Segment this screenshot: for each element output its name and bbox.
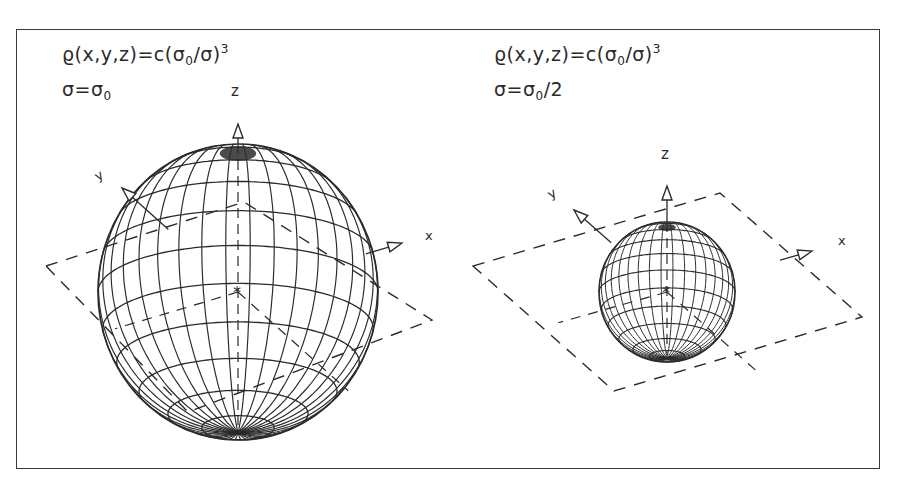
left-x-axis-label: x [425, 228, 433, 243]
left-z-axis-arrowhead-icon [233, 124, 243, 138]
right-y-axis-shaft [585, 219, 612, 243]
left-sigma-condition: σ=σ0 [62, 78, 112, 103]
right-sigma-condition: σ=σ0/2 [494, 78, 563, 103]
right-x-axis-arrowhead-icon [797, 250, 812, 260]
left-z-axis-label: z [231, 82, 239, 100]
sphere-meridian [179, 146, 238, 433]
left-xy-plane [46, 202, 432, 412]
right-center-star-icon: * [662, 283, 670, 302]
sphere-meridian [238, 146, 297, 433]
right-z-axis-arrowhead-icon [662, 186, 672, 200]
sphere-meridian [667, 223, 696, 359]
right-z-axis-label: z [661, 145, 669, 163]
left-panel: * [46, 124, 432, 440]
diagram-canvas: ** [0, 0, 907, 496]
right-panel: * [473, 186, 862, 391]
sphere-parallel [139, 358, 337, 401]
right-x-axis-label: x [838, 233, 846, 248]
right-density-formula: ϱ(x,y,z)=c(σ0/σ)3 [494, 42, 661, 68]
left-center-star-icon: * [233, 283, 241, 302]
left-density-formula: ϱ(x,y,z)=c(σ0/σ)3 [62, 42, 229, 68]
sphere-meridian [99, 249, 239, 432]
left-x-axis-hidden [115, 292, 238, 329]
sphere-meridian [238, 249, 378, 432]
right-north-pole-cap [658, 224, 676, 231]
left-north-pole-cap [220, 146, 256, 161]
left-x-axis-arrowhead-icon [387, 242, 402, 252]
